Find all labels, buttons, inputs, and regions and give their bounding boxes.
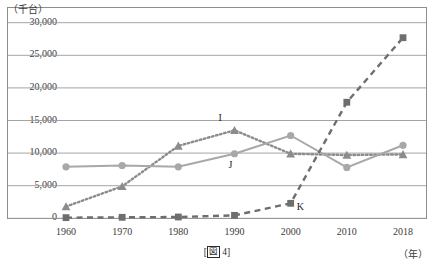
chart-plot-area (0, 0, 434, 265)
data-point-marker (399, 142, 406, 149)
caption-suffix: ] (227, 247, 230, 257)
data-point-marker (63, 214, 70, 221)
data-point-marker (231, 212, 238, 219)
data-point-marker (287, 132, 294, 139)
data-point-marker (62, 202, 71, 210)
data-point-marker (119, 162, 126, 169)
caption-label: 図 (207, 246, 220, 258)
data-point-marker (175, 163, 182, 170)
data-point-marker (175, 214, 182, 221)
data-point-marker (231, 150, 238, 157)
series-label-K: K (297, 201, 304, 212)
series-label-I: I (219, 112, 222, 123)
series-line-I (66, 130, 403, 206)
data-point-marker (343, 99, 350, 106)
data-point-marker (230, 126, 239, 134)
figure-caption: [図 4] (0, 246, 434, 258)
data-point-marker (62, 163, 69, 170)
data-point-marker (343, 164, 350, 171)
figure-root: （千台） （年） 05,00010,00015,00020,00025,0003… (0, 0, 434, 265)
data-point-marker (287, 200, 294, 207)
series-label-J: J (229, 159, 233, 170)
data-point-marker (400, 34, 407, 41)
data-point-marker (119, 214, 126, 221)
